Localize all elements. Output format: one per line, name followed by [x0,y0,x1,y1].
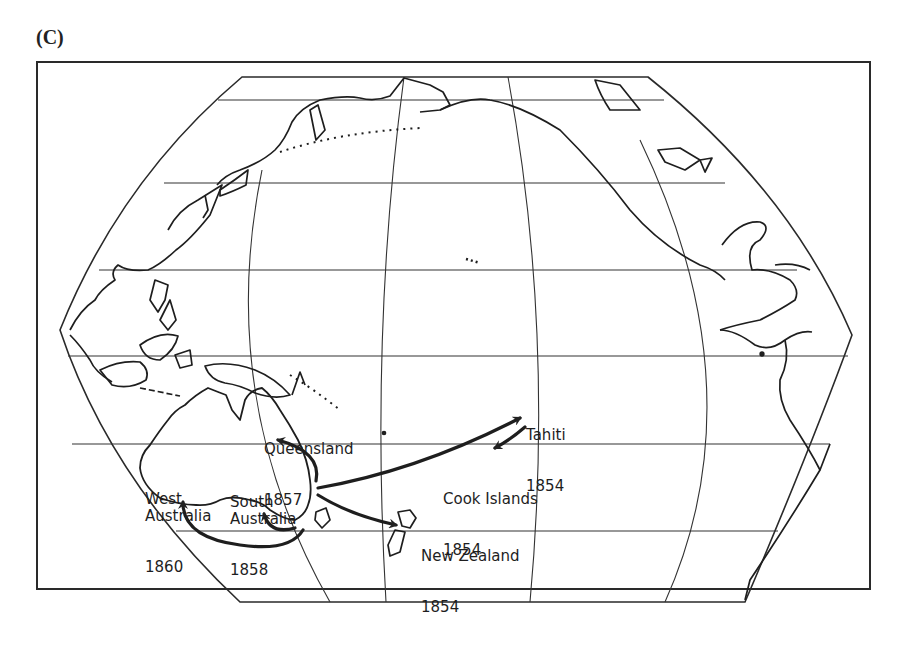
arrow-to-cook-islands [495,427,525,448]
label-south-australia: South Australia 1858 [230,460,310,596]
label-tahiti-name: Tahiti [526,427,566,444]
label-south-australia-year: 1858 [230,562,310,579]
label-queensland-name: Queensland [264,441,353,458]
label-west-australia-year: 1860 [145,559,225,576]
label-new-zealand-year: 1854 [421,599,520,616]
label-new-zealand: New Zealand 1854 [421,514,520,633]
label-south-australia-name: South Australia [230,494,310,528]
label-cook-islands-name: Cook Islands [443,491,538,508]
label-new-zealand-name: New Zealand [421,548,520,565]
label-west-australia-name: West Australia [145,491,225,525]
label-west-australia: West Australia 1860 [145,457,225,593]
